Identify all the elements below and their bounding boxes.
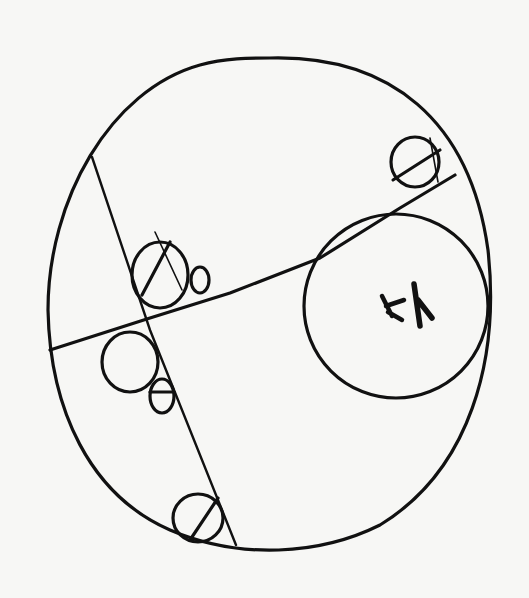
hatch-bottom bbox=[190, 498, 218, 540]
small-circle-center bbox=[132, 242, 188, 308]
inner-circle bbox=[304, 214, 488, 398]
tiny-oval-2 bbox=[150, 379, 174, 413]
small-circle-left bbox=[102, 332, 158, 392]
chord-long bbox=[50, 175, 455, 350]
tiny-oval-1 bbox=[191, 267, 209, 293]
chord-diagonal bbox=[92, 157, 236, 545]
hatch-center bbox=[142, 242, 170, 295]
sketch-canvas bbox=[0, 0, 529, 598]
scribble-mark bbox=[382, 284, 432, 326]
